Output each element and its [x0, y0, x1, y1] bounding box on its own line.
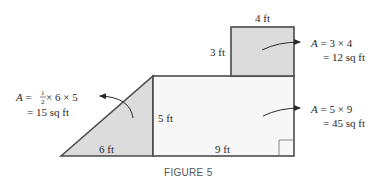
- rectangle-bottom-label: 9 ft: [215, 143, 230, 155]
- composite-area-figure: 4 ft 3 ft A = 3 × 4 = 12 sq ft 5 ft 9 ft…: [0, 0, 385, 187]
- fraction-numerator: 1: [41, 89, 45, 97]
- square-formula-line1: A = 3 × 4: [310, 37, 353, 49]
- square-shape: [231, 27, 294, 76]
- triangle-formula-equals: =: [23, 91, 32, 103]
- square-formula-line2: = 12 sq ft: [323, 51, 365, 63]
- square-formula-expression: = 3 × 4: [318, 37, 353, 49]
- rectangle-side-label: 5 ft: [158, 112, 173, 124]
- triangle-formula-line1a: A =: [15, 91, 32, 103]
- square-side-label: 3 ft: [210, 46, 225, 58]
- rectangle-formula-expression: = 5 × 9: [318, 103, 353, 115]
- figure-caption: FIGURE 5: [164, 167, 213, 178]
- triangle-formula-line1b: × 6 × 5: [46, 91, 78, 103]
- triangle-formula-line2: = 15 sq ft: [27, 106, 69, 118]
- rectangle-formula-line2: = 45 sq ft: [323, 117, 365, 129]
- rectangle-formula-line1: A = 5 × 9: [310, 103, 353, 115]
- fraction-denominator: 2: [41, 98, 45, 106]
- triangle-bottom-label: 6 ft: [99, 143, 114, 155]
- square-top-label: 4 ft: [255, 12, 270, 24]
